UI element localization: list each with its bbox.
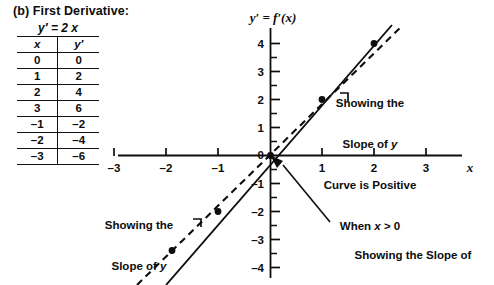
annotation-var-y: y [160, 260, 166, 272]
x-tick-label: –1 [212, 162, 225, 174]
y-axis-title: y′ = f′(x) [248, 10, 296, 25]
annotation-zero-slope: Showing the Slope of y Curve is 0 at x =… [355, 222, 472, 285]
x-tick-label: –2 [160, 162, 173, 174]
annotation-line: Showing the Slope of [355, 249, 472, 263]
x-tick-label: –3 [108, 162, 121, 174]
y-tick-label: –4 [251, 262, 264, 274]
data-point-marker [371, 40, 378, 47]
y-tick-label: 4 [258, 38, 265, 50]
annotation-line: Slope of y [324, 138, 417, 152]
annotation-line: Showing the [105, 219, 173, 233]
annotation-line: Slope of y [105, 260, 173, 274]
annotation-var-y: y [391, 138, 397, 150]
annotation-line: Showing the [324, 97, 417, 111]
data-point-marker [215, 208, 222, 215]
annotation-text: Slope of [343, 138, 392, 150]
annotation-text: Slope of [112, 260, 161, 272]
origin-label: 0 [258, 149, 264, 161]
x-tick-label: 3 [423, 162, 429, 174]
y-tick-label: –2 [251, 206, 264, 218]
y-tick-label: 2 [258, 94, 264, 106]
x-axis-title: x [466, 160, 474, 175]
annotation-negative-slope: Showing the Slope of y Curve is Negative… [105, 192, 173, 285]
annotation-line: Curve is Positive [324, 179, 417, 193]
y-tick-label: 1 [258, 122, 265, 134]
y-tick-label: –3 [251, 234, 264, 246]
figure-first-derivative: (b) First Derivative: y′ = 2 x x y′ 0 0 … [0, 0, 494, 285]
y-tick-label: 3 [258, 66, 264, 78]
